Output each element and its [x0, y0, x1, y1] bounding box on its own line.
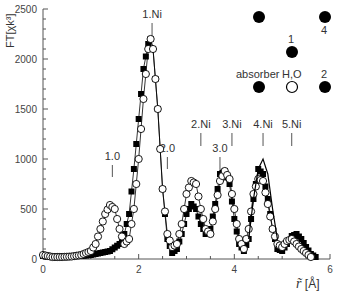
open-circle-marker — [159, 185, 166, 192]
x-tick-label: 6 — [327, 264, 333, 275]
open-circle-marker — [161, 208, 168, 215]
chart-figure: 0500100015002000250002461.Ni2.Ni3.Ni4.Ni… — [0, 0, 341, 296]
x-axis-unit: [Å] — [305, 277, 320, 291]
open-circle-marker — [178, 220, 185, 227]
open-circle-marker — [195, 193, 202, 200]
shell-label: 2.Ni — [191, 118, 211, 130]
open-circle-marker — [92, 240, 99, 247]
shell-label: 1.Ni — [142, 8, 162, 20]
inset-label-2: 2 — [321, 68, 327, 80]
y-axis-label: FT[χk³] — [4, 0, 18, 48]
inset-label-4: 4 — [321, 24, 327, 36]
y-tick-label: 0 — [31, 254, 37, 265]
inset-atom-absorber — [253, 81, 265, 93]
y-tick-label: 2500 — [15, 4, 38, 15]
filled-square-marker — [136, 116, 142, 122]
open-circle-marker — [176, 230, 183, 237]
open-circle-marker — [209, 218, 216, 225]
filled-square-marker — [234, 229, 240, 235]
open-circle-marker — [137, 125, 144, 132]
open-circle-marker — [94, 233, 101, 240]
open-circle-marker — [149, 45, 156, 52]
open-circle-marker — [228, 190, 235, 197]
open-circle-marker — [97, 225, 104, 232]
open-circle-marker — [142, 70, 149, 77]
y-tick-label: 1500 — [15, 104, 38, 115]
open-circle-marker — [264, 200, 271, 207]
shell-label: 4.Ni — [253, 118, 273, 130]
open-circle-marker — [133, 180, 140, 187]
open-circle-marker — [128, 220, 135, 227]
open-circle-marker — [259, 177, 266, 184]
open-circle-marker — [130, 205, 137, 212]
open-circle-marker — [245, 225, 252, 232]
open-circle-marker — [307, 253, 314, 260]
open-circle-marker — [152, 75, 159, 82]
open-circle-marker — [233, 220, 240, 227]
open-circle-marker — [240, 245, 247, 252]
open-circle-marker — [114, 215, 121, 222]
y-tick-label: 2000 — [15, 54, 38, 65]
open-circle-marker — [173, 240, 180, 247]
inset-label-1: 1 — [288, 33, 294, 45]
open-circle-marker — [207, 230, 214, 237]
open-circle-marker — [231, 205, 238, 212]
shell-label: 3.Ni — [222, 118, 242, 130]
x-axis-label: r̃ [Å] — [296, 276, 319, 292]
open-circle-marker — [267, 213, 274, 220]
filled-square-marker — [131, 166, 137, 172]
distance-label: 3.0 — [212, 142, 227, 154]
open-circle-marker — [197, 205, 204, 212]
open-circle-marker — [192, 180, 199, 187]
distance-label: 1.0 — [105, 150, 120, 162]
open-circle-marker — [226, 175, 233, 182]
x-tick-label: 4 — [232, 264, 238, 275]
inset-atom-1 — [286, 46, 298, 58]
inset-atom-2 — [319, 81, 331, 93]
filled-square-marker — [128, 189, 134, 195]
x-tick-label: 0 — [40, 264, 46, 275]
open-circle-marker — [99, 218, 106, 225]
x-axis-symbol: r̃ — [296, 276, 301, 291]
inset-label-h2o: H,O — [282, 68, 302, 80]
y-tick-label: 1000 — [15, 154, 38, 165]
shell-label: 5.Ni — [282, 118, 302, 130]
open-circle-marker — [116, 225, 123, 232]
open-circle-marker — [212, 205, 219, 212]
inset-atom-h2o — [287, 82, 298, 93]
open-circle-marker — [140, 95, 147, 102]
open-circle-marker — [154, 105, 161, 112]
open-circle-marker — [111, 205, 118, 212]
filled-square-marker — [229, 199, 235, 205]
open-circle-marker — [214, 191, 221, 198]
y-tick-label: 500 — [20, 204, 37, 215]
filled-square-marker — [133, 141, 139, 147]
inset-atom-4 — [319, 11, 331, 23]
open-circle-marker — [262, 189, 269, 196]
inset-label-absorber: absorber — [236, 68, 279, 80]
open-circle-marker — [135, 155, 142, 162]
inset-atom-3 — [253, 11, 265, 23]
open-circle-marker — [126, 235, 133, 242]
open-circle-marker — [157, 145, 164, 152]
open-circle-marker — [181, 205, 188, 212]
open-circle-marker — [147, 35, 154, 42]
x-tick-label: 2 — [136, 264, 142, 275]
open-circle-marker — [200, 215, 207, 222]
